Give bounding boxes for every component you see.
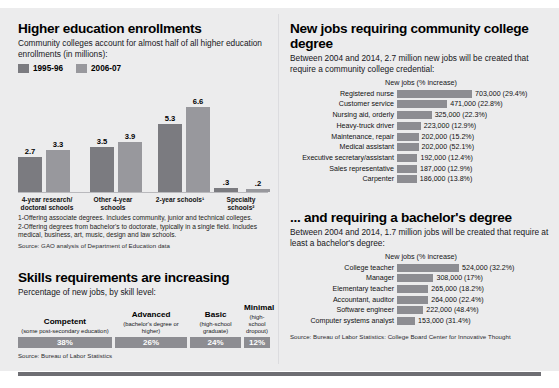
- enrollments-bar-chart: 2.73.33.53.95.36.6.3.2: [18, 102, 268, 192]
- infographic-page: Higher education enrollments Community c…: [0, 0, 559, 388]
- column-header-bottom: New jobs (% increase): [290, 252, 552, 261]
- job-title: Executive secretary/assistant: [290, 154, 397, 162]
- job-title: Carpenter: [290, 175, 397, 183]
- footnote-1: 1-Offering associate degrees. Includes c…: [18, 214, 268, 223]
- page-title-community-college-jobs: New jobs requiring community college deg…: [290, 21, 552, 51]
- skill-cell: Minimal(high-school dropout)12%: [244, 304, 270, 348]
- column-header-top: New jobs (% increase): [290, 78, 552, 87]
- skill-level-bar: 38%: [18, 337, 112, 348]
- skill-level-qualifier: (high-school dropout): [244, 314, 270, 335]
- bar-value-label: 5.3: [158, 114, 182, 123]
- job-value-label: 187,000 (12.9%): [417, 165, 472, 173]
- source-bachelors-jobs: Source: Bureau of Labor Statistics: Coll…: [290, 333, 552, 340]
- job-row: Accountant, auditor264,000 (22.4%): [290, 295, 552, 305]
- job-title: College teacher: [290, 264, 397, 272]
- job-value-label: 265,000 (18.2%): [428, 285, 483, 293]
- bachelors-jobs-rows: College teacher524,000 (32.2%)Manager308…: [290, 263, 552, 326]
- bar-group: 2.73.3: [18, 102, 70, 192]
- job-title: Software engineer: [290, 306, 397, 314]
- chart-baseline: [18, 192, 268, 193]
- footnote-2: 2-Offering degrees from bachelor's to do…: [18, 223, 268, 240]
- job-value-label: 192,000 (12.4%): [417, 154, 472, 162]
- job-row: Customer service471,000 (22.8%): [290, 100, 552, 110]
- legend-item-1995-96: 1995-96: [18, 64, 63, 73]
- job-value-label: 222,000 (48.4%): [423, 306, 478, 314]
- bar-value-label: 3.9: [118, 132, 142, 141]
- subtitle-skills: Percentage of new jobs, by skill level:: [18, 287, 270, 298]
- bar-1995-96: 5.3: [158, 124, 182, 192]
- bar-value-label: 3.3: [46, 140, 70, 149]
- legend-swatch-icon-1995-96: [18, 64, 29, 73]
- job-row: College teacher524,000 (32.2%): [290, 263, 552, 273]
- job-bar: [397, 100, 447, 108]
- skill-level-bar: 26%: [115, 337, 187, 348]
- bar-fill: [118, 142, 142, 192]
- bottom-rule: [18, 372, 541, 376]
- page-title-skills: Skills requirements are increasing: [18, 270, 270, 285]
- bar-fill: [158, 124, 182, 192]
- subtitle-bachelors-jobs: Between 2004 and 2014, 1.7 million jobs …: [290, 227, 552, 249]
- job-title: Manager: [290, 274, 397, 282]
- bar-fill: [18, 157, 42, 192]
- job-title: Heavy-truck driver: [290, 122, 397, 130]
- job-bar: [397, 90, 472, 98]
- job-title: Medical assistant: [290, 143, 397, 151]
- skill-level-bar: 12%: [244, 337, 270, 348]
- job-row: Elementary teacher265,000 (18.2%): [290, 284, 552, 294]
- bar-fill: [90, 147, 114, 192]
- skill-level-qualifier: (high-school graduate): [190, 321, 241, 335]
- job-value-label: 264,000 (22.4%): [428, 296, 483, 304]
- legend-label-2006-07: 2006-07: [91, 64, 121, 73]
- community-college-jobs-rows: Registered nurse703,000 (29.4%)Customer …: [290, 89, 552, 184]
- job-bar: [397, 296, 428, 304]
- job-row: Registered nurse703,000 (29.4%): [290, 89, 552, 99]
- legend-item-2006-07: 2006-07: [76, 64, 121, 73]
- skill-cells-container: Competent(some post-secondary education)…: [18, 304, 270, 348]
- category-label: 4-year research/doctoral schools: [18, 196, 76, 212]
- job-bar: [397, 306, 423, 314]
- chart-legend: 1995-96 2006-07: [18, 64, 266, 73]
- job-value-label: 325,000 (22.3%): [432, 111, 487, 119]
- category-label: 2-year schools¹: [152, 196, 208, 204]
- job-title: Elementary teacher: [290, 285, 397, 293]
- job-value-label: 223,000 (12.9%): [421, 122, 476, 130]
- job-row: Software engineer222,000 (48.4%): [290, 306, 552, 316]
- skill-level-name: Advanced: [115, 311, 187, 320]
- bar-fill: [46, 150, 70, 192]
- bar-value-label: 6.6: [186, 97, 210, 106]
- bar-value-label: .2: [246, 179, 270, 188]
- job-bar: [397, 154, 417, 162]
- bar-group-container: 2.73.33.53.95.36.6.3.2: [18, 102, 268, 192]
- skill-level-bar: 24%: [190, 337, 241, 348]
- bar-1995-96: 3.5: [90, 147, 114, 192]
- right-column: New jobs requiring community college deg…: [280, 8, 559, 371]
- job-bar: [397, 274, 433, 282]
- job-bar: [397, 133, 419, 141]
- bar-1995-96: 2.7: [18, 157, 42, 192]
- skill-level-qualifier: (bachelor's degree or higher): [115, 321, 187, 335]
- job-bar: [397, 175, 417, 183]
- job-row: Heavy-truck driver223,000 (12.9%): [290, 121, 552, 131]
- skill-cell: Basic(high-school graduate)24%: [190, 311, 241, 349]
- job-value-label: 308,000 (17%): [433, 274, 483, 282]
- legend-label-1995-96: 1995-96: [33, 64, 63, 73]
- category-label: Other 4-yearschools: [84, 196, 142, 212]
- job-row: Medical assistant202,000 (52.1%): [290, 142, 552, 152]
- category-label: Specialtyschools²: [212, 196, 270, 212]
- job-bar: [397, 111, 432, 119]
- legend-swatch-icon-2006-07: [76, 64, 87, 73]
- job-row: Manager308,000 (17%): [290, 273, 552, 283]
- bar-value-label: .3: [214, 178, 238, 187]
- skill-level-qualifier: (some post-secondary education): [18, 328, 112, 335]
- skill-level-name: Competent: [18, 318, 112, 327]
- job-value-label: 186,000 (13.8%): [417, 175, 472, 183]
- job-value-label: 703,000 (29.4%): [472, 90, 527, 98]
- bar-value-label: 2.7: [18, 147, 42, 156]
- job-row: Sales representative187,000 (12.9%): [290, 164, 552, 174]
- job-value-label: 153,000 (31.4%): [415, 317, 470, 325]
- subtitle-enrollments: Community colleges account for almost ha…: [18, 38, 266, 60]
- skill-cell: Advanced(bachelor's degree or higher)26%: [115, 311, 187, 349]
- source-enrollments: Source: GAO analysis of Department of Ed…: [18, 242, 268, 249]
- job-row: Maintenance, repair202,000 (15.2%): [290, 132, 552, 142]
- job-title: Sales representative: [290, 165, 397, 173]
